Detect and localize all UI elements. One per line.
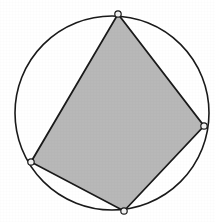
inscribed-quadrilateral-figure <box>0 0 215 222</box>
vertex-right-marker <box>201 123 207 129</box>
figure-canvas <box>0 0 215 222</box>
vertex-top-marker <box>115 11 121 17</box>
vertex-bottom-marker <box>121 208 127 214</box>
vertex-left-marker <box>28 159 34 165</box>
